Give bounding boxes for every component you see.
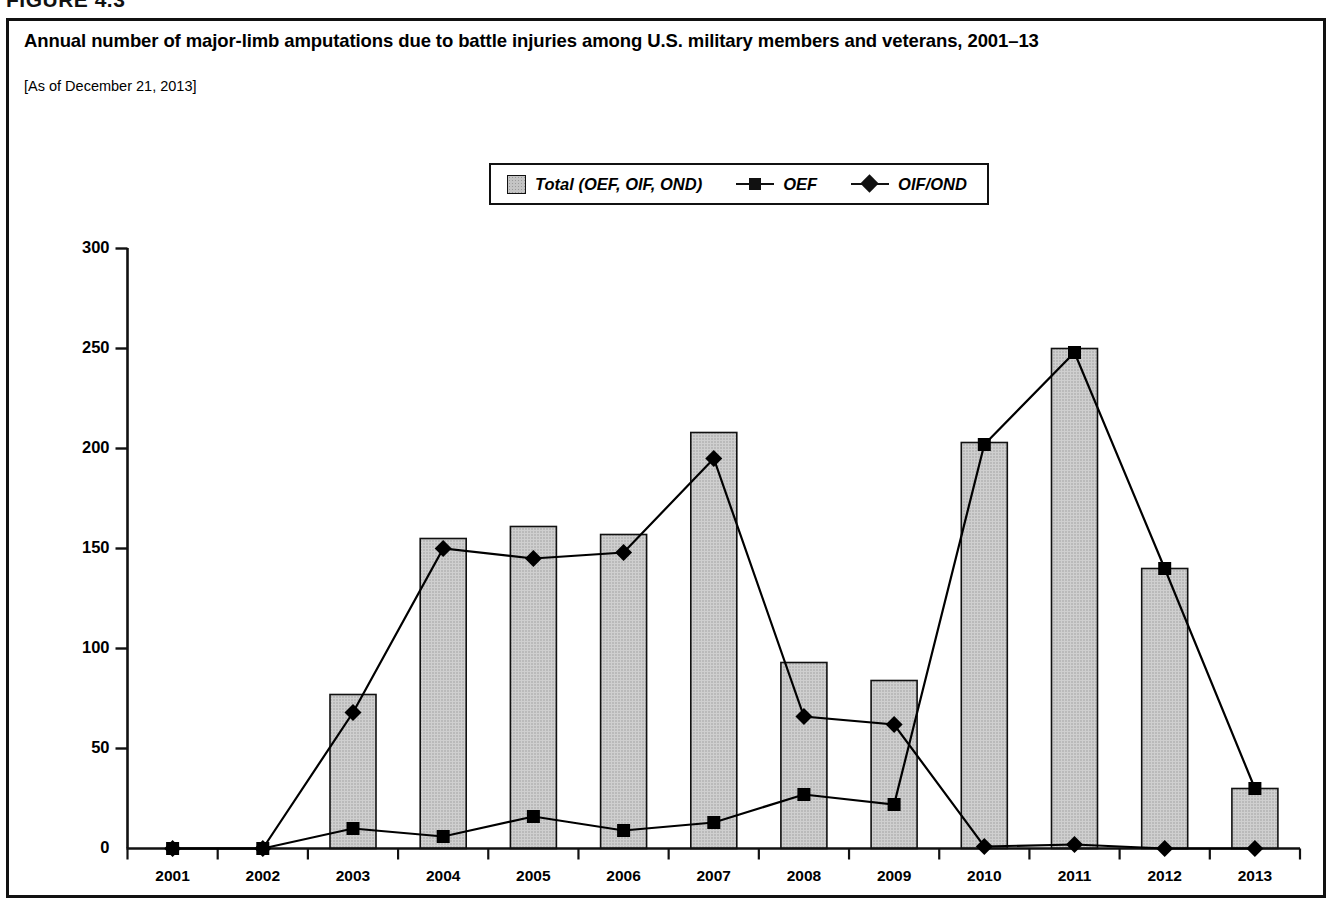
bar-swatch-icon	[507, 175, 526, 194]
diamond-marker-icon	[851, 177, 889, 191]
legend-label-oef: OEF	[783, 175, 817, 194]
figure-panel	[6, 18, 1326, 898]
legend-item-oef[interactable]: OEF	[736, 175, 817, 194]
legend-item-oifond[interactable]: OIF/OND	[851, 175, 967, 194]
square-marker-icon	[736, 177, 774, 191]
figure-label: FIGURE 4.3	[6, 0, 125, 12]
chart-subtitle: [As of December 21, 2013]	[24, 78, 197, 94]
legend-label-oifond: OIF/OND	[898, 175, 967, 194]
legend-item-total[interactable]: Total (OEF, OIF, OND)	[507, 175, 702, 194]
legend-label-total: Total (OEF, OIF, OND)	[535, 175, 702, 194]
chart-legend: Total (OEF, OIF, OND) OEF OIF/OND	[489, 163, 989, 205]
chart-title: Annual number of major-limb amputations …	[24, 30, 1039, 52]
